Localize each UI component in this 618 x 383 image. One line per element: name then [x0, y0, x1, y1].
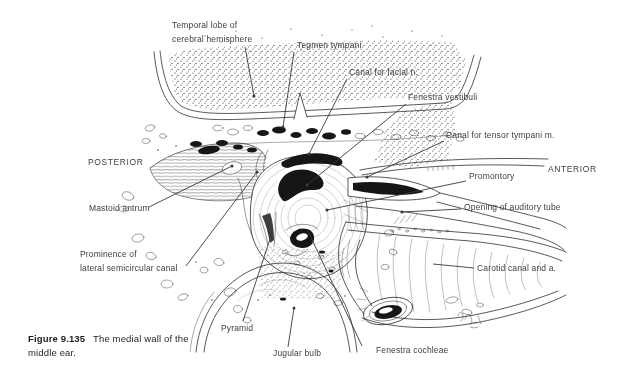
label-prominence-line1: Prominence of — [80, 249, 137, 259]
caption-line1: The medial wall of the — [93, 333, 189, 344]
label-jugular-bulb: Jugular bulb — [273, 348, 321, 358]
label-carotid-canal: Carotid canal and a. — [477, 263, 556, 273]
label-temporal-lobe-line1: Temporal lobe of — [172, 20, 238, 30]
label-temporal-lobe-line2: cerebral hemisphere — [172, 34, 252, 44]
label-canal-for-facial-n: Canal for facial n. — [349, 67, 418, 77]
label-fenestra-cochleae: Fenestra cochleae — [376, 345, 449, 355]
label-mastoid-antrum: Mastoid antrum — [89, 203, 150, 213]
label-opening-of-auditory-tube: Opening of auditory tube — [464, 202, 561, 212]
label-fenestra-vestibuli: Fenestra vestibuli — [408, 92, 477, 102]
auditory-tube-opening — [348, 177, 566, 250]
mastoid-region — [150, 140, 268, 258]
sub-promontory-texture — [255, 244, 350, 302]
label-promontory: Promontory — [469, 171, 515, 181]
label-canal-for-tensor-tympani: Canal for tensor tympani m. — [446, 130, 554, 140]
label-anterior: ANTERIOR — [548, 164, 597, 174]
anatomy-figure-svg: Temporal lobe of cerebral hemisphere Teg… — [0, 0, 618, 383]
label-tegmen-tympani: Tegmen tympani — [297, 40, 361, 50]
label-prominence-line2: lateral semicircular canal — [80, 263, 177, 273]
caption-figure-number: Figure 9.135 — [28, 333, 86, 344]
textbook-figure-page: Temporal lobe of cerebral hemisphere Teg… — [0, 0, 618, 383]
caption-line2: middle ear. — [28, 347, 76, 358]
label-pyramid: Pyramid — [221, 323, 253, 333]
label-posterior: POSTERIOR — [88, 157, 143, 167]
